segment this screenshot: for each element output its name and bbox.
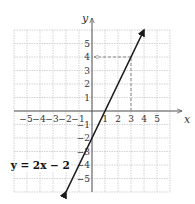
x-tick-label: 3 [128, 114, 134, 124]
y-tick-label: −5 [77, 174, 91, 184]
x-tick-label: −2 [58, 114, 71, 124]
y-tick-label: 2 [84, 79, 90, 89]
x-tick-label: 2 [115, 114, 121, 124]
y-tick-label: −1 [77, 120, 90, 130]
x-tick-label: 4 [141, 114, 147, 124]
y-tick-label: 3 [84, 66, 90, 76]
axis-labels: xy [81, 12, 191, 126]
y-tick-label: 1 [84, 93, 90, 103]
y-axis-label: y [81, 12, 89, 25]
coordinate-plane: −5−4−3−2−11234554321−1−2−3−4−5 y = 2x − … [0, 0, 195, 204]
x-tick-label: −5 [19, 114, 33, 124]
x-tick-label: 5 [154, 114, 160, 124]
x-tick-label: −3 [45, 114, 59, 124]
x-axis-label: x [184, 113, 191, 126]
x-tick-label: −4 [32, 114, 46, 124]
y-tick-label: 4 [84, 52, 90, 62]
y-tick-label: −2 [77, 133, 90, 143]
y-tick-label: 5 [84, 39, 90, 49]
equation-label: y = 2x − 2 [10, 159, 70, 171]
